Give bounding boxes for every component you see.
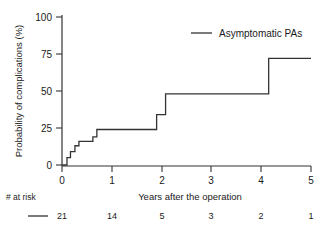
- y-tick-label-0: 0: [46, 160, 52, 171]
- risk-value-4: 2: [258, 211, 263, 221]
- y-tick-label-75: 75: [41, 49, 53, 60]
- legend: Asymptomatic PAs: [191, 28, 302, 39]
- y-axis-ticks: [56, 17, 62, 165]
- kaplan-meier-figure: 100 75 50 25 0 Probability of complicati…: [0, 0, 324, 231]
- x-tick-label-4: 4: [258, 175, 264, 186]
- survival-step-curve: [62, 58, 311, 165]
- x-tick-label-3: 3: [208, 175, 214, 186]
- legend-label-asymptomatic-pas: Asymptomatic PAs: [219, 28, 302, 39]
- risk-value-5: 1: [308, 211, 313, 221]
- x-tick-label-0: 0: [59, 175, 65, 186]
- y-tick-label-50: 50: [41, 86, 53, 97]
- risk-value-2: 5: [159, 211, 164, 221]
- risk-value-3: 3: [208, 211, 213, 221]
- y-tick-label-100: 100: [35, 12, 52, 23]
- y-axis-title: Probability of complications (%): [13, 25, 24, 158]
- risk-value-1: 14: [107, 211, 117, 221]
- x-tick-label-2: 2: [159, 175, 165, 186]
- x-axis-title: Years after the operation: [138, 191, 242, 202]
- risk-table-header: # at risk: [6, 192, 37, 202]
- x-axis-ticks: [62, 166, 311, 172]
- x-tick-label-5: 5: [308, 175, 314, 186]
- y-tick-label-25: 25: [41, 123, 53, 134]
- x-tick-label-1: 1: [109, 175, 115, 186]
- risk-value-0: 21: [57, 211, 67, 221]
- chart-canvas: 100 75 50 25 0 Probability of complicati…: [0, 0, 324, 231]
